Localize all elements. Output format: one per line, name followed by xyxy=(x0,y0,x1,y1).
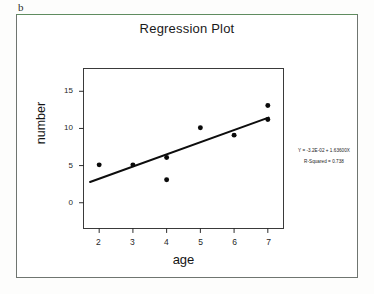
regression-fit-line xyxy=(90,118,268,182)
data-point xyxy=(232,133,237,138)
y-tick-label: 15 xyxy=(51,87,73,95)
regression-annotation: Y = -3.2E-02 + 1.63600XR-Squared = 0.738 xyxy=(289,145,359,167)
data-point xyxy=(164,177,169,182)
x-tick-label: 2 xyxy=(88,238,108,247)
y-tick-label: 5 xyxy=(51,162,73,170)
data-point xyxy=(97,162,102,167)
x-tick-label: 4 xyxy=(156,238,176,247)
panel-letter: b xyxy=(18,0,24,14)
figure-root: b Regression Plot number age 051015 2345… xyxy=(0,0,374,294)
y-axis-label: number xyxy=(34,102,48,144)
plot-panel xyxy=(83,68,284,229)
data-point xyxy=(265,103,270,108)
data-point xyxy=(265,117,270,122)
annotation-line: Y = -3.2E-02 + 1.63600X xyxy=(289,145,359,156)
y-tick-label: 10 xyxy=(51,124,73,132)
x-tick-label: 6 xyxy=(225,238,245,247)
chart-title: Regression Plot xyxy=(17,21,357,36)
axis-tick-marks xyxy=(79,91,268,233)
data-point xyxy=(164,155,169,160)
data-point xyxy=(130,162,135,167)
chart-frame: Regression Plot number age 051015 234567… xyxy=(16,14,358,278)
y-tick-label: 0 xyxy=(51,199,73,207)
annotation-line: R-Squared = 0.738 xyxy=(289,156,359,167)
x-tick-label: 3 xyxy=(122,238,142,247)
data-point xyxy=(198,125,203,130)
x-tick-label: 5 xyxy=(191,238,211,247)
x-axis-label: age xyxy=(83,252,284,267)
x-tick-label: 7 xyxy=(259,238,279,247)
scatter-plot-svg xyxy=(84,69,283,228)
